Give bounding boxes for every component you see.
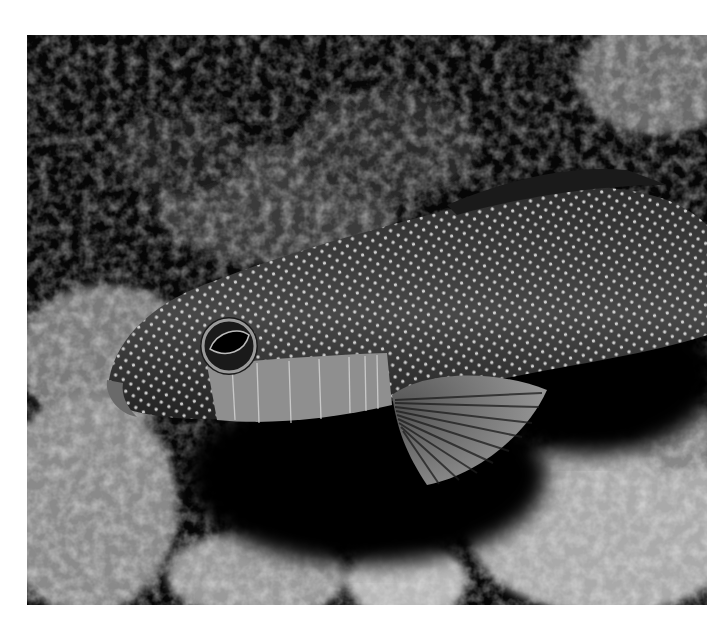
- fish-photograph: [27, 35, 707, 605]
- photo-canvas: [27, 35, 707, 605]
